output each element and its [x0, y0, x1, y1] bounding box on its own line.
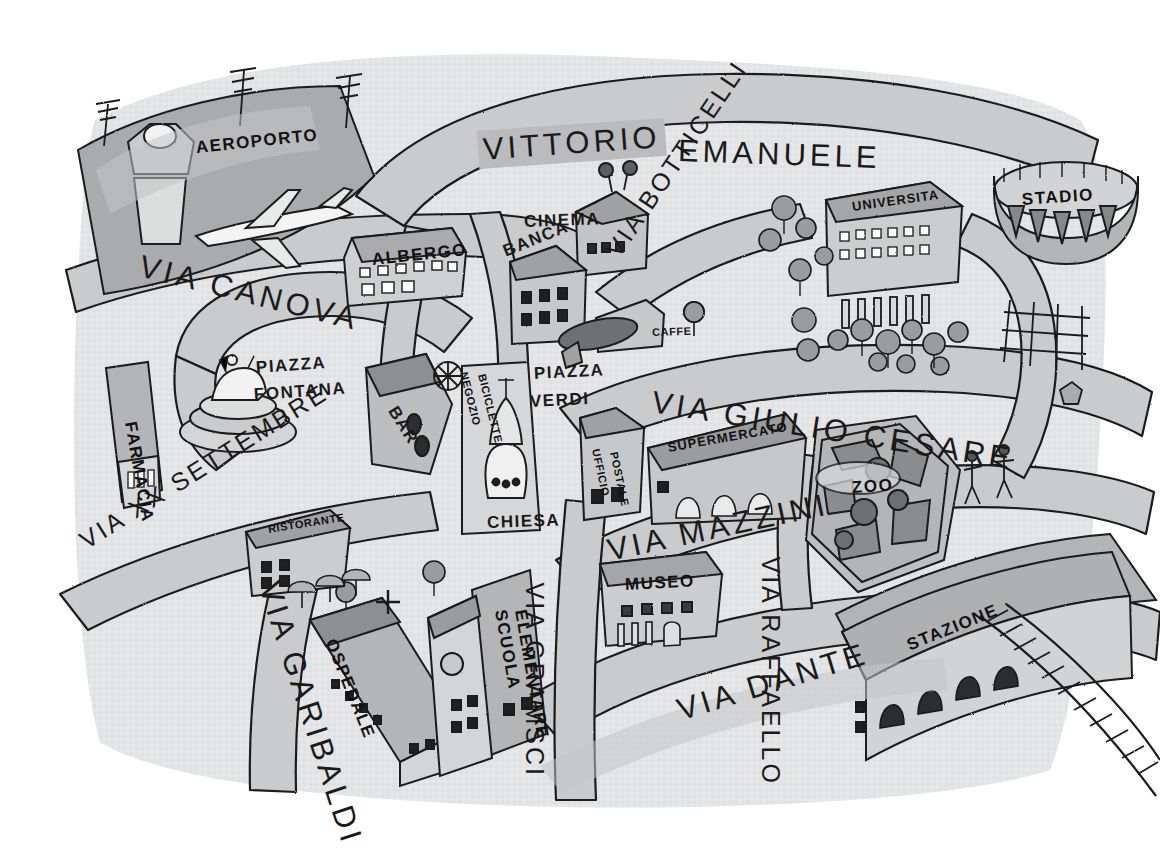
zoo-label[interactable]: ZOO — [851, 475, 894, 498]
hotel-building — [344, 228, 466, 306]
bicycle-wheel-icon — [434, 362, 462, 390]
via-raffaello-label[interactable]: VIA RAFFAELLO — [756, 557, 785, 786]
piazza-verdi-l1-label[interactable]: PIAZZA — [533, 360, 604, 384]
piazza-verdi-l2-label[interactable]: VERDI — [529, 389, 589, 412]
caffe-label[interactable]: CAFFE — [652, 325, 692, 338]
illustrated-town-map: VIA CANOVAVITTORIOEMANUELEVIA BOTTICELLI… — [0, 0, 1160, 863]
museo-label[interactable]: MUSEO — [624, 571, 695, 595]
emanuele-label[interactable]: EMANUELE — [677, 133, 881, 176]
chiesa-label[interactable]: CHIESA — [487, 510, 561, 533]
